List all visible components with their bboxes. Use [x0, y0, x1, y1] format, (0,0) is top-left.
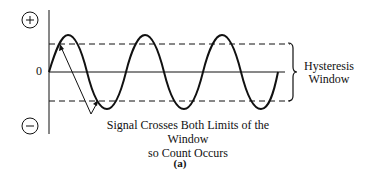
minus-icon	[22, 118, 38, 134]
hysteresis-window-label: Hysteresis Window	[297, 60, 361, 86]
zero-label: 0	[36, 64, 42, 79]
annotation-caption: Signal Crosses Both Limits of the Window…	[90, 118, 286, 160]
window-brace	[288, 43, 297, 101]
figure-label: (a)	[160, 157, 200, 169]
plus-icon	[22, 12, 38, 28]
hysteresis-label-line-2: Window	[297, 73, 361, 86]
annotation-arrows	[59, 44, 98, 114]
annotation-line-1: Signal Crosses Both Limits of the Window	[90, 118, 286, 146]
